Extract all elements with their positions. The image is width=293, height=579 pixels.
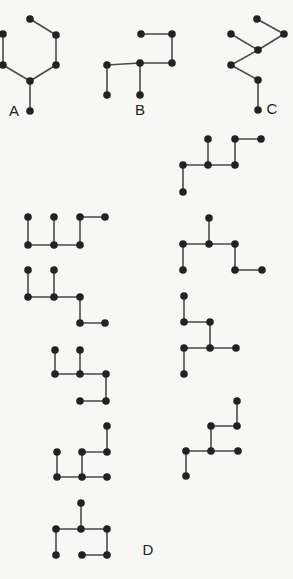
- node-dot: [179, 188, 187, 196]
- node-dot: [204, 135, 212, 143]
- node-dot: [205, 214, 213, 222]
- node-dot: [182, 447, 190, 455]
- node-dot: [24, 241, 32, 249]
- node-dot: [233, 397, 241, 405]
- node-dot: [50, 266, 58, 274]
- background: [0, 0, 293, 579]
- node-dot: [258, 266, 266, 274]
- node-dot: [51, 346, 59, 354]
- node-dot: [76, 293, 84, 301]
- node-dot: [231, 161, 239, 169]
- node-dot: [50, 293, 58, 301]
- node-dot: [254, 76, 262, 84]
- node-dot: [103, 91, 111, 99]
- node-dot: [103, 473, 111, 481]
- label-b: B: [135, 102, 145, 117]
- node-dot: [253, 15, 261, 23]
- node-dot: [103, 422, 111, 430]
- node-dot: [103, 61, 111, 69]
- node-dot: [102, 370, 110, 378]
- node-dot: [76, 213, 84, 221]
- node-dot: [77, 525, 85, 533]
- node-dot: [103, 525, 111, 533]
- node-dot: [52, 61, 60, 69]
- node-dot: [53, 473, 61, 481]
- node-dot: [52, 31, 60, 39]
- node-dot: [180, 292, 188, 300]
- node-dot: [103, 551, 111, 559]
- node-dot: [231, 240, 239, 248]
- node-dot: [227, 61, 235, 69]
- node-dot: [76, 319, 84, 327]
- node-dot: [180, 318, 188, 326]
- node-dot: [136, 91, 144, 99]
- node-dot: [179, 161, 187, 169]
- node-dot: [180, 370, 188, 378]
- label-c: C: [267, 101, 278, 116]
- node-dot: [26, 107, 34, 115]
- node-dot: [76, 241, 84, 249]
- node-dot: [24, 266, 32, 274]
- node-dot: [78, 473, 86, 481]
- node-dot: [52, 525, 60, 533]
- label-d: D: [143, 542, 154, 557]
- node-dot: [103, 448, 111, 456]
- node-dot: [168, 59, 176, 67]
- node-dot: [51, 370, 59, 378]
- node-dot: [101, 213, 109, 221]
- node-dot: [101, 319, 109, 327]
- node-dot: [50, 213, 58, 221]
- node-dot: [254, 106, 262, 114]
- node-dot: [76, 397, 84, 405]
- node-dot: [257, 135, 265, 143]
- node-dot: [280, 30, 288, 38]
- node-dot: [137, 30, 145, 38]
- node-dot: [77, 499, 85, 507]
- node-dot: [136, 59, 144, 67]
- node-dot: [53, 448, 61, 456]
- node-dot: [233, 422, 241, 430]
- node-dot: [76, 370, 84, 378]
- node-dot: [254, 46, 262, 54]
- node-dot: [179, 240, 187, 248]
- node-dot: [227, 30, 235, 38]
- node-dot: [206, 318, 214, 326]
- label-a: A: [9, 103, 19, 118]
- node-dot: [231, 135, 239, 143]
- node-dot: [78, 448, 86, 456]
- node-dot: [207, 422, 215, 430]
- node-dot: [180, 344, 188, 352]
- node-dot: [50, 241, 58, 249]
- node-dot: [76, 346, 84, 354]
- node-dot: [206, 344, 214, 352]
- node-dot: [232, 344, 240, 352]
- node-dot: [26, 15, 34, 23]
- node-dot: [207, 447, 215, 455]
- graph-diagram-canvas: [0, 0, 293, 579]
- node-dot: [231, 266, 239, 274]
- node-dot: [78, 551, 86, 559]
- node-dot: [179, 266, 187, 274]
- node-dot: [24, 213, 32, 221]
- node-dot: [205, 240, 213, 248]
- node-dot: [168, 30, 176, 38]
- node-dot: [26, 77, 34, 85]
- node-dot: [102, 397, 110, 405]
- node-dot: [52, 551, 60, 559]
- node-dot: [24, 293, 32, 301]
- node-dot: [182, 472, 190, 480]
- node-dot: [204, 161, 212, 169]
- node-dot: [234, 447, 242, 455]
